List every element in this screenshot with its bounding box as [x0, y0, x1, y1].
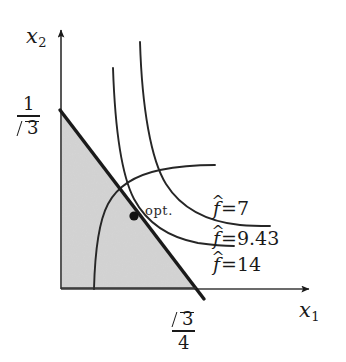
axis-label-x1: x1	[299, 300, 320, 323]
contour-curve-f7	[140, 42, 270, 226]
fraction-denominator: 3	[17, 118, 40, 138]
axis-label-x2: x2	[26, 26, 47, 49]
sqrt-icon: 3	[174, 310, 193, 329]
optimum-label: opt.	[145, 204, 173, 217]
f-hat-symbol: ^f	[213, 229, 221, 248]
contour-label-f7: ^f=7	[213, 199, 249, 218]
fraction-numerator: 3	[172, 310, 195, 330]
hat-accent-icon: ^	[212, 194, 225, 210]
figure-canvas	[0, 0, 346, 362]
fraction-numerator: 1	[17, 95, 40, 115]
hat-accent-icon: ^	[212, 250, 225, 266]
f-hat-symbol: ^f	[213, 255, 221, 274]
x-intercept-label: 3 4	[172, 310, 195, 353]
hat-accent-icon: ^	[212, 224, 225, 240]
contour-label-f14: ^f=14	[213, 255, 261, 274]
sqrt-icon: 3	[19, 119, 38, 138]
fraction-one-over-sqrt-three: 1 3	[17, 95, 40, 138]
f-hat-symbol: ^f	[213, 199, 221, 218]
optimization-figure: x2 x1 1 3 3 4 opt. ^f=7 ^f=9.43 ^f=14	[0, 0, 346, 362]
optimum-point	[129, 211, 138, 220]
contour-label-f943: ^f=9.43	[213, 229, 279, 248]
fraction-sqrt-three-over-four: 3 4	[172, 310, 195, 353]
y-intercept-label: 1 3	[17, 95, 40, 138]
fraction-denominator: 4	[172, 333, 195, 353]
